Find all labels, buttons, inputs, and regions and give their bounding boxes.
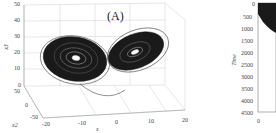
time-axis-label: Time <box>231 54 237 66</box>
time-tick: 4500 <box>241 110 253 116</box>
x-axis-label: x <box>96 126 99 132</box>
x-tick: 20 <box>182 117 188 123</box>
time-tick: 1000 <box>241 26 253 32</box>
time-tick: 3500 <box>241 86 253 92</box>
z-tick: 40 <box>14 17 20 23</box>
z-tick: 20 <box>14 49 20 55</box>
panel-label-a: (A) <box>107 9 124 24</box>
x-tick: -20 <box>42 121 50 127</box>
z-tick: 10 <box>14 65 20 71</box>
recurrence-plot-graphic <box>230 0 276 133</box>
z-tick: 30 <box>14 33 20 39</box>
y-axis-label: x2 <box>12 122 18 128</box>
x-tick: 0 <box>115 119 118 125</box>
x-tick: 10 <box>148 118 154 124</box>
time-tick: 2500 <box>241 62 253 68</box>
panel-a-lorenz-attractor: (A) 50 40 30 20 10 0 x3 50 0 -50 x2 -20 … <box>0 0 200 133</box>
z-axis-label: x3 <box>3 44 9 50</box>
y-tick: 0 <box>25 102 28 108</box>
time-tick: 2000 <box>241 50 253 56</box>
time-tick: 4000 <box>241 98 253 104</box>
y-tick: 50 <box>14 88 20 94</box>
panel-b-recurrence-plot: 0 500 1000 1500 2000 2500 3000 3500 4000… <box>230 0 276 133</box>
time-tick: 3000 <box>241 74 253 80</box>
x-tick: 0 <box>257 118 260 124</box>
time-tick: 500 <box>243 14 252 20</box>
time-tick: 1500 <box>241 38 253 44</box>
x-tick: -10 <box>78 120 86 126</box>
time-tick: 0 <box>252 1 255 7</box>
z-tick: 50 <box>14 1 20 7</box>
y-tick: -50 <box>30 114 38 120</box>
